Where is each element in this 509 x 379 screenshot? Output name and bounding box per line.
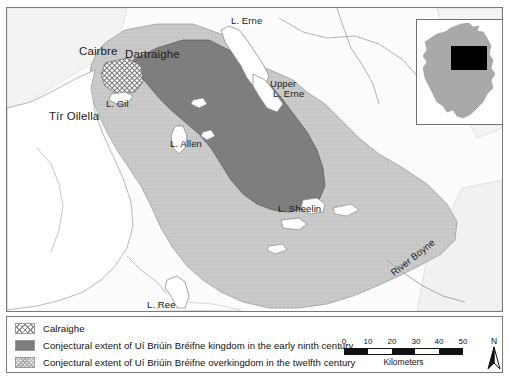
map-label-cairbre: Cairbre xyxy=(79,45,117,57)
scale-tick-30: 30 xyxy=(412,337,421,346)
scale-segment-2 xyxy=(368,349,391,354)
map-label-upper-l-erne-line2: L. Erne xyxy=(273,89,304,99)
map-label-l-sheelin: L. Sheelin xyxy=(278,204,321,214)
legend-item-kingdom[interactable]: Conjectural extent of Uí Briúin Bréifne … xyxy=(15,337,345,353)
inset-canvas xyxy=(417,20,503,124)
scale-bar-units-label: Kilometers xyxy=(344,357,463,367)
legend-swatch-kingdom-icon xyxy=(15,340,35,351)
ireland-inset-map[interactable] xyxy=(416,19,503,125)
scale-tick-40: 40 xyxy=(435,337,444,346)
scale-tick-50: 50 xyxy=(459,337,468,346)
north-arrow-letter: N xyxy=(484,337,504,346)
map-label-dartraighe: Dartraighe xyxy=(125,48,180,60)
map-label-l-allen: L. Allen xyxy=(170,139,202,149)
legend-label-overkingdom: Conjectural extent of Uí Briúin Bréifne … xyxy=(43,357,355,368)
map-label-tir-oilella: Tír Oilella xyxy=(49,110,99,122)
scale-bar-tick-labels: 0 10 20 30 40 50 xyxy=(344,337,469,348)
legend-panel: Calraighe Conjectural extent of Uí Briúi… xyxy=(6,316,503,373)
scale-bar: 0 10 20 30 40 50 Kilometers xyxy=(344,337,469,369)
map-label-l-erne: L. Erne xyxy=(231,16,262,26)
study-area-extent-box xyxy=(451,46,487,70)
scale-segment-4 xyxy=(415,349,438,354)
scale-tick-0: 0 xyxy=(342,337,346,346)
legend-label-calraighe: Calraighe xyxy=(43,323,85,334)
scale-bar-track xyxy=(344,348,463,355)
scale-segment-1 xyxy=(345,349,368,354)
legend-swatch-calraighe-icon xyxy=(15,323,35,334)
scale-tick-20: 20 xyxy=(388,337,397,346)
legend-item-list: Calraighe Conjectural extent of Uí Briúi… xyxy=(15,320,345,371)
legend-swatch-overkingdom-icon xyxy=(15,357,35,368)
north-arrow: N xyxy=(484,337,504,371)
map-panel[interactable]: Cairbre Dartraighe Tír Oilella L. Erne U… xyxy=(6,7,503,312)
scale-tick-10: 10 xyxy=(364,337,373,346)
legend-item-overkingdom[interactable]: Conjectural extent of Uí Briúin Bréifne … xyxy=(15,354,345,370)
legend-item-calraighe[interactable]: Calraighe xyxy=(15,320,345,336)
scale-segment-5 xyxy=(439,349,462,354)
map-figure: Cairbre Dartraighe Tír Oilella L. Erne U… xyxy=(0,0,509,379)
map-label-l-gil: L. Gil xyxy=(106,99,129,109)
legend-label-kingdom: Conjectural extent of Uí Briúin Bréifne … xyxy=(43,340,353,351)
scale-segment-3 xyxy=(392,349,415,354)
map-label-l-ree: L. Ree xyxy=(147,300,176,310)
north-arrow-needle-icon xyxy=(484,346,504,370)
